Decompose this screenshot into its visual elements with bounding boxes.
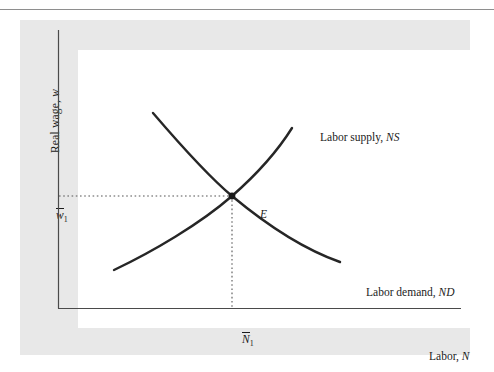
figure-root: Real wage, w Labor, N w1 N1 Labor supply… <box>0 0 494 372</box>
equilibrium-point-marker <box>229 193 236 200</box>
chart-svg <box>0 0 494 372</box>
labor-supply-curve <box>114 128 292 270</box>
labor-demand-curve <box>153 113 340 262</box>
